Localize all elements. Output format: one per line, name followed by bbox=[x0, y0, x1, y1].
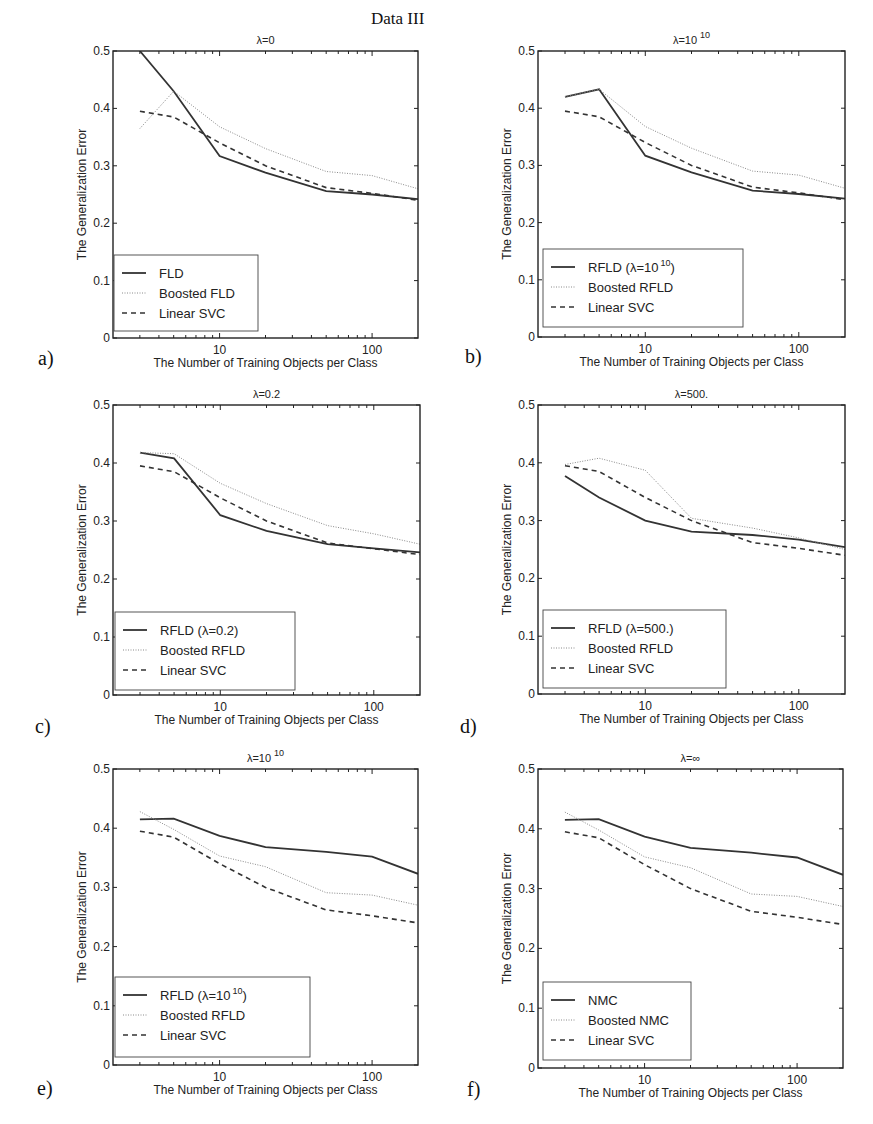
y-tick-label: 0 bbox=[103, 1058, 110, 1072]
y-tick-label: 0.2 bbox=[518, 571, 535, 585]
legend-label: Boosted RFLD bbox=[588, 280, 673, 295]
chart-title: λ=0 bbox=[256, 34, 274, 46]
legend-label: Linear SVC bbox=[588, 1033, 654, 1048]
y-tick-label: 0 bbox=[103, 688, 110, 702]
chart-f: λ=∞00.10.20.30.40.510100The Number of Tr… bbox=[500, 752, 843, 1100]
x-tick-label: 100 bbox=[789, 342, 809, 356]
y-tick-label: 0.2 bbox=[518, 216, 535, 230]
legend-label: Linear SVC bbox=[588, 661, 654, 676]
x-tick-label: 10 bbox=[638, 1073, 652, 1087]
y-tick-label: 0.1 bbox=[93, 630, 110, 644]
series-line bbox=[565, 466, 845, 556]
y-tick-label: 0 bbox=[528, 330, 535, 344]
chart-d: λ=500.00.10.20.30.40.510100The Number of… bbox=[500, 388, 845, 726]
y-tick-label: 0.5 bbox=[518, 762, 535, 776]
legend-label: RFLD (λ=0.2) bbox=[160, 623, 238, 638]
series-line bbox=[140, 51, 418, 199]
series-line bbox=[140, 819, 418, 874]
x-axis-label: The Number of Training Objects per Class bbox=[154, 713, 378, 727]
series-line bbox=[140, 453, 420, 545]
legend-label: Boosted NMC bbox=[588, 1013, 669, 1028]
legend-label: Boosted RFLD bbox=[160, 1008, 245, 1023]
x-tick-label: 100 bbox=[362, 343, 382, 357]
charts-canvas: λ=000.10.20.30.40.510100The Number of Tr… bbox=[0, 0, 873, 1124]
x-tick-label: 10 bbox=[639, 699, 653, 713]
chart-title: λ=∞ bbox=[681, 752, 701, 764]
y-tick-label: 0.4 bbox=[93, 821, 110, 835]
x-tick-label: 100 bbox=[789, 699, 809, 713]
y-tick-label: 0.1 bbox=[93, 274, 110, 288]
chart-e: λ=101000.10.20.30.40.510100The Number of… bbox=[75, 748, 418, 1097]
series-line bbox=[565, 89, 845, 198]
y-tick-label: 0.4 bbox=[93, 101, 110, 115]
series-line bbox=[565, 458, 845, 549]
y-tick-label: 0.3 bbox=[93, 514, 110, 528]
x-tick-label: 10 bbox=[214, 700, 228, 714]
y-axis-label: The Generalization Error bbox=[500, 484, 514, 615]
chart-title: λ=500. bbox=[675, 388, 708, 400]
y-axis-label: The Generalization Error bbox=[75, 851, 89, 982]
y-tick-label: 0.5 bbox=[93, 398, 110, 412]
y-tick-label: 0 bbox=[528, 687, 535, 701]
legend-label: Linear SVC bbox=[159, 306, 225, 321]
y-tick-label: 0.5 bbox=[93, 762, 110, 776]
x-tick-label: 100 bbox=[364, 700, 384, 714]
y-axis-label: The Generalization Error bbox=[500, 853, 514, 984]
x-tick-label: 10 bbox=[213, 343, 227, 357]
chart-a: λ=000.10.20.30.40.510100The Number of Tr… bbox=[75, 34, 418, 370]
y-tick-label: 0.3 bbox=[93, 880, 110, 894]
x-axis-label: The Number of Training Objects per Class bbox=[578, 1086, 802, 1100]
y-tick-label: 0.2 bbox=[93, 940, 110, 954]
x-axis-label: The Number of Training Objects per Class bbox=[579, 712, 803, 726]
y-tick-label: 0.3 bbox=[518, 882, 535, 896]
y-tick-label: 0 bbox=[528, 1061, 535, 1075]
legend-label: Linear SVC bbox=[160, 663, 226, 678]
y-tick-label: 0.1 bbox=[518, 1001, 535, 1015]
x-tick-label: 100 bbox=[362, 1070, 382, 1084]
legend-label: RFLD (λ=500.) bbox=[588, 621, 674, 636]
y-tick-label: 0.3 bbox=[518, 514, 535, 528]
y-tick-label: 0 bbox=[103, 331, 110, 345]
y-tick-label: 0.4 bbox=[93, 456, 110, 470]
chart-b: λ=101000.10.20.30.40.510100The Number of… bbox=[500, 30, 845, 369]
series-line bbox=[565, 476, 845, 547]
x-axis-label: The Number of Training Objects per Class bbox=[579, 355, 803, 369]
y-tick-label: 0.4 bbox=[518, 101, 535, 115]
legend-label: Boosted RFLD bbox=[160, 643, 245, 658]
series-line bbox=[140, 111, 418, 200]
y-tick-label: 0.2 bbox=[93, 572, 110, 586]
series-line bbox=[565, 111, 845, 200]
chart-title: λ=0.2 bbox=[253, 388, 280, 400]
legend-label: Boosted RFLD bbox=[588, 641, 673, 656]
y-tick-label: 0.3 bbox=[93, 159, 110, 173]
legend-label: Boosted FLD bbox=[159, 286, 235, 301]
y-axis-label: The Generalization Error bbox=[75, 484, 89, 615]
y-tick-label: 0.1 bbox=[518, 273, 535, 287]
series-line bbox=[140, 466, 420, 555]
series-line bbox=[140, 831, 418, 923]
y-axis-label: The Generalization Error bbox=[75, 129, 89, 260]
x-axis-label: The Number of Training Objects per Class bbox=[153, 1083, 377, 1097]
x-tick-label: 10 bbox=[213, 1070, 227, 1084]
y-axis-label: The Generalization Error bbox=[500, 128, 514, 259]
y-tick-label: 0.2 bbox=[93, 216, 110, 230]
x-axis-label: The Number of Training Objects per Class bbox=[153, 356, 377, 370]
y-tick-label: 0.2 bbox=[518, 941, 535, 955]
y-tick-label: 0.1 bbox=[93, 999, 110, 1013]
chart-title: λ=1010 bbox=[247, 748, 284, 764]
y-tick-label: 0.5 bbox=[518, 398, 535, 412]
series-line bbox=[140, 453, 420, 553]
y-tick-label: 0.4 bbox=[518, 822, 535, 836]
y-tick-label: 0.4 bbox=[518, 456, 535, 470]
series-line bbox=[565, 89, 845, 188]
legend-label: Linear SVC bbox=[160, 1028, 226, 1043]
chart-title: λ=1010 bbox=[673, 30, 710, 46]
y-tick-label: 0.5 bbox=[93, 44, 110, 58]
legend-label: Linear SVC bbox=[588, 300, 654, 315]
y-tick-label: 0.5 bbox=[518, 44, 535, 58]
chart-c: λ=0.200.10.20.30.40.510100The Number of … bbox=[75, 388, 420, 727]
series-line bbox=[565, 832, 843, 925]
y-tick-label: 0.3 bbox=[518, 158, 535, 172]
series-line bbox=[140, 91, 418, 189]
legend-label: FLD bbox=[159, 266, 184, 281]
